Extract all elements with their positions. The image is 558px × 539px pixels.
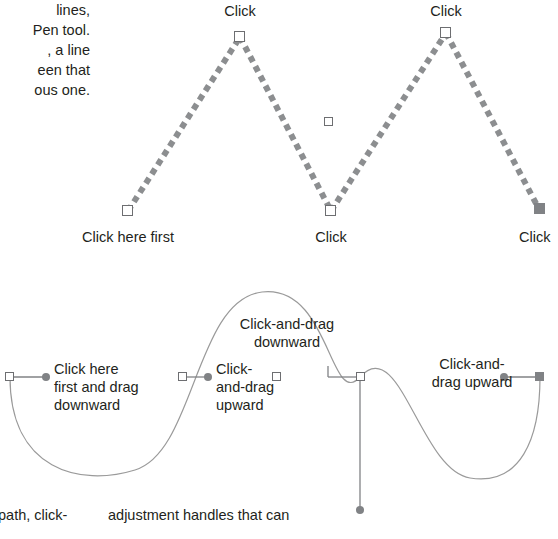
handle-dot-bottom-mid[interactable] bbox=[204, 373, 212, 381]
label-click-valley: Click bbox=[296, 228, 366, 246]
handle-dot-bottom-downward[interactable] bbox=[356, 506, 364, 514]
body-text-left-column: lines, Pen tool. , a line een that ous o… bbox=[0, 0, 90, 100]
anchor-square-peak-right[interactable] bbox=[440, 27, 451, 38]
anchor-square-valley[interactable] bbox=[325, 205, 336, 216]
label-click-and-drag-upward: Click- and-drag upward bbox=[216, 360, 306, 414]
handle-dot-bottom-start[interactable] bbox=[42, 373, 50, 381]
top-zigzag-path bbox=[128, 33, 540, 211]
anchor-square-end-selected[interactable] bbox=[534, 203, 545, 214]
anchor-square-bottom-third[interactable] bbox=[356, 372, 365, 381]
figure-page: lines, Pen tool. , a line een that ous o… bbox=[0, 0, 558, 539]
anchor-square-bottom-end-selected[interactable] bbox=[535, 372, 544, 381]
label-click-peak-right: Click bbox=[411, 2, 481, 20]
label-click-and-drag-upward-right: Click-and- drag upward bbox=[414, 355, 530, 391]
label-click-here-first-and-drag-downward: Click here first and drag downward bbox=[54, 360, 174, 414]
label-click-right-end: Click bbox=[519, 228, 550, 246]
anchor-square-floating[interactable] bbox=[324, 117, 333, 126]
anchor-square-bottom-mid[interactable] bbox=[178, 372, 187, 381]
body-text-bottom-middle: adjustment handles that can bbox=[108, 505, 288, 525]
anchor-square-peak-left[interactable] bbox=[234, 31, 245, 42]
label-click-and-drag-downward: Click-and-drag downward bbox=[222, 315, 352, 351]
label-click-here-first: Click here first bbox=[72, 228, 184, 246]
anchor-square-bottom-start[interactable] bbox=[5, 372, 14, 381]
label-click-peak-left: Click bbox=[205, 2, 275, 20]
body-text-bottom-left: path, click- bbox=[0, 505, 90, 525]
anchor-square-start[interactable] bbox=[122, 205, 133, 216]
